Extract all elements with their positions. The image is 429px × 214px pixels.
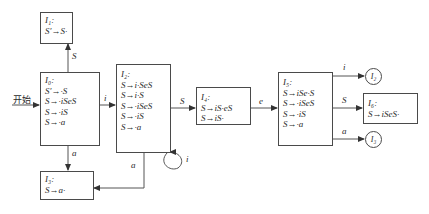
lr-item: S→·a	[121, 122, 170, 133]
edge-label-I2-loop: i	[186, 154, 189, 164]
edge-label-I0-I3: a	[72, 148, 77, 158]
lr-item: S→·iS	[283, 109, 332, 120]
edge-label-I5-I3: a	[342, 126, 347, 136]
state-name: I₅:	[283, 77, 332, 88]
state-I6: I₆: S→iSeS·	[363, 93, 418, 124]
lr-item: S→iS·eS	[201, 103, 250, 114]
edge-label-I4-I5: e	[259, 96, 263, 106]
edge-label-I2-I3: a	[131, 160, 136, 170]
lr-item: S→·iSeS	[121, 101, 170, 112]
lr-item: S→·iSeS	[283, 98, 332, 109]
lr-item: S→·a	[45, 117, 99, 128]
state-I2: I₂: S→i·SeS S→i·S S→·iSeS S→·iS S→·a	[116, 64, 171, 153]
lr-item: S→iS·	[201, 113, 250, 124]
state-name: I₂:	[121, 69, 170, 80]
lr-item: S→i·S	[121, 90, 170, 101]
start-label: 开始	[13, 93, 31, 106]
lr-item: S→a·	[45, 185, 93, 196]
lr-item: S→iSe·S	[283, 88, 332, 99]
state-name: I₁:	[45, 15, 72, 26]
state-I5: I₅: S→iSe·S S→·iSeS S→·iS S→·a	[278, 72, 333, 146]
lr-item: S→·a	[283, 119, 332, 130]
lr-item: S→·iSeS	[45, 96, 99, 107]
lr-item: S′→·S	[45, 86, 99, 97]
lr-item: S→·iS	[45, 107, 99, 118]
edge-label-I5-I2: i	[343, 62, 346, 72]
lr-item: S→·iS	[121, 111, 170, 122]
edge-label-I5-I6: S	[342, 95, 347, 105]
state-name: I₄:	[201, 92, 250, 103]
edge-label-I2-I4: S	[180, 96, 185, 106]
state-I0: I₀: S′→·S S→·iSeS S→·iS S→·a	[40, 72, 100, 146]
lr-item: S→i·SeS	[121, 80, 170, 91]
lr-item: S→iSeS·	[368, 109, 417, 120]
edge-label-I0-I1: S	[72, 51, 77, 61]
state-name: I₆:	[368, 98, 417, 109]
ref-state-I2: I₂	[365, 68, 382, 85]
state-I4: I₄: S→iS·eS S→iS·	[196, 87, 251, 125]
state-I1: I₁: S′→S·	[40, 12, 73, 44]
lr-item: S′→S·	[45, 26, 72, 37]
state-name: I₀:	[45, 75, 99, 86]
state-name: I₃:	[45, 174, 93, 185]
state-I3: I₃: S→a·	[40, 171, 94, 200]
edge-label-I0-I2: i	[104, 93, 107, 103]
ref-state-I3: I₃	[365, 131, 382, 148]
